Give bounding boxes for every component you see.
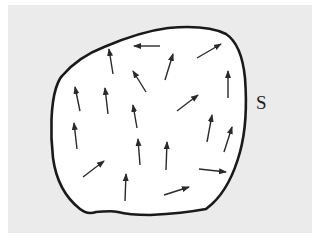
vector-field-diagram — [0, 0, 324, 250]
vector-arrow — [166, 142, 167, 170]
closed-surface-region — [51, 27, 246, 215]
vector-arrow — [125, 174, 126, 201]
surface-label: S — [256, 92, 267, 114]
